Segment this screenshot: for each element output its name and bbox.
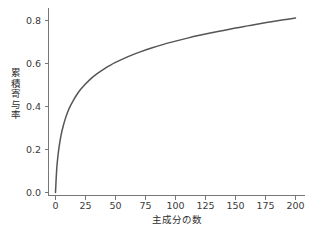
y-tick-label: 0.8 [26,15,41,26]
x-tick-label: 175 [256,200,274,211]
x-tick-label: 200 [286,200,304,211]
x-tick-label: 25 [79,200,91,211]
y-tick-label: 0.4 [26,101,41,112]
x-axis-title: 主成分の数 [152,214,202,225]
y-tick-label: 0.2 [26,144,41,155]
plot-canvas: 0.0 0.2 0.4 0.6 0.8 0 25 50 75 100 125 [0,0,311,230]
x-tick-label: 125 [196,200,214,211]
x-tick-label: 100 [166,200,184,211]
y-axis-title: 累積寄与率 [9,68,23,121]
x-tick-label: 0 [52,200,58,211]
y-tick-label: 0.0 [26,187,41,198]
y-tick-label: 0.6 [26,58,41,69]
x-tick-label: 75 [139,200,151,211]
x-tick-label: 150 [226,200,244,211]
x-tick-labels: 0 25 50 75 100 125 150 175 200 [52,200,304,211]
x-tick-label: 50 [109,200,121,211]
chart-figure: 0.0 0.2 0.4 0.6 0.8 0 25 50 75 100 125 [0,0,311,230]
